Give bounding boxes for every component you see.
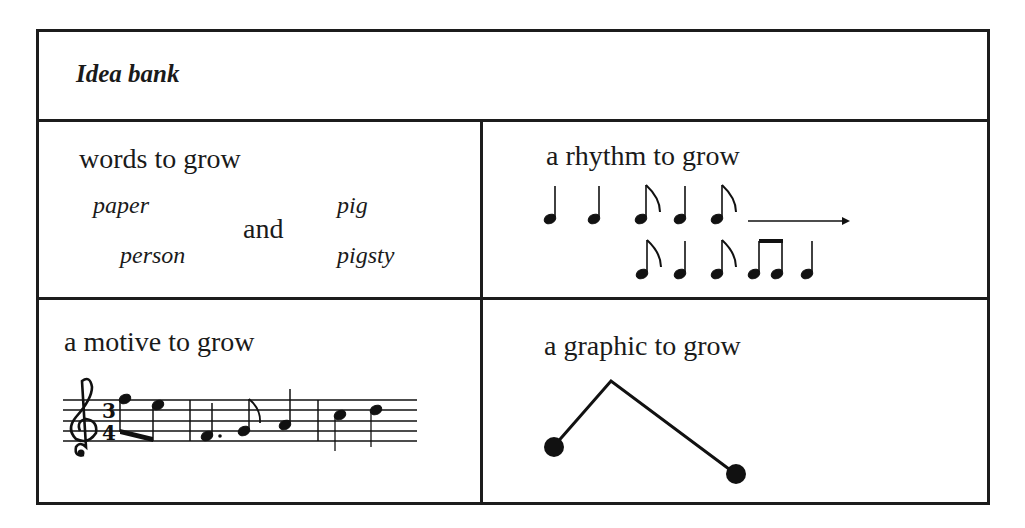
contour-graphic-icon: [480, 295, 780, 495]
word-and: and: [243, 213, 283, 245]
musical-staff-icon: 3 4: [60, 385, 420, 470]
rhythm-heading: a rhythm to grow: [546, 140, 740, 172]
header-divider: [36, 119, 987, 122]
page-title: Idea bank: [76, 60, 179, 88]
svg-text:4: 4: [102, 421, 116, 445]
rhythm-notation-icon: [480, 180, 880, 290]
word-person: person: [120, 242, 185, 269]
motive-heading: a motive to grow: [64, 326, 255, 358]
word-paper: paper: [93, 192, 149, 219]
word-pigsty: pigsty: [337, 242, 394, 269]
word-pig: pig: [337, 192, 368, 219]
words-heading: words to grow: [79, 143, 241, 175]
svg-text:3: 3: [102, 399, 116, 423]
